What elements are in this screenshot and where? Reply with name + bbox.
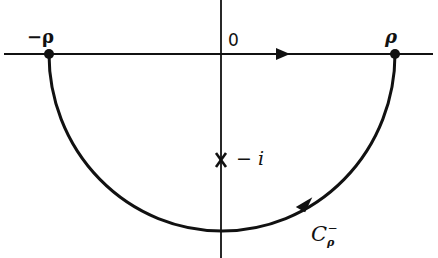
- axis-arrow-icon: [276, 48, 290, 60]
- arc-arrow-icon: [295, 195, 312, 213]
- contour-label: Cρ−: [311, 224, 344, 245]
- contour-name-sub: ρ: [327, 236, 334, 249]
- contour-name-sup: −: [327, 221, 337, 235]
- origin-text: 0: [228, 30, 239, 50]
- pole-label: − i: [236, 149, 264, 168]
- origin-label: 0: [228, 32, 239, 49]
- neg-rho-text: −ρ: [27, 26, 54, 47]
- semicircle-arc: [49, 54, 395, 231]
- contour-name-main: C: [311, 222, 327, 246]
- diagram-canvas: [0, 0, 438, 258]
- rho-text: ρ: [385, 26, 397, 47]
- pole-i-text: i: [258, 147, 264, 169]
- neg-rho-point: [44, 49, 54, 59]
- rho-point: [390, 49, 400, 59]
- pole-minus-text: −: [236, 147, 252, 169]
- contour-diagram: −ρ 0 ρ − i Cρ−: [0, 0, 438, 258]
- rho-label: ρ: [385, 28, 397, 46]
- neg-rho-label: −ρ: [27, 28, 54, 46]
